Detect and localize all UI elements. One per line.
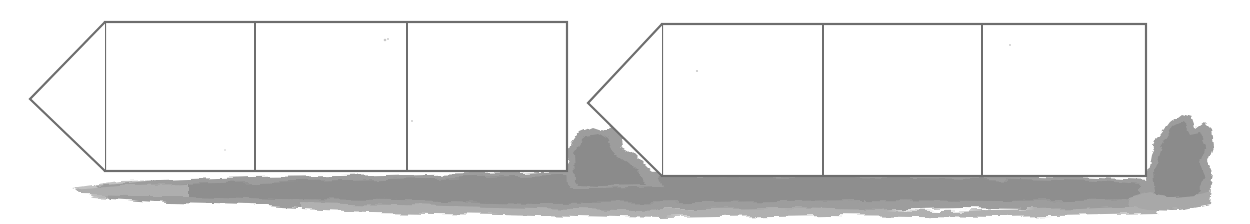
speckle-3 [696,70,698,72]
banner-arrow-left-head[interactable] [30,22,105,171]
banner-arrow-right[interactable] [588,24,1146,176]
banner-arrow-left[interactable] [30,22,567,171]
banner-arrow-left-body[interactable] [105,22,567,171]
speckle-1 [384,39,387,42]
figure-drawing [0,0,1250,224]
speckle-6 [1009,44,1011,46]
figure-canvas [0,0,1250,224]
speckle-5 [224,149,226,151]
speckle-4 [411,120,413,122]
banner-arrow-right-body[interactable] [662,24,1146,176]
speckle-2 [387,38,389,40]
